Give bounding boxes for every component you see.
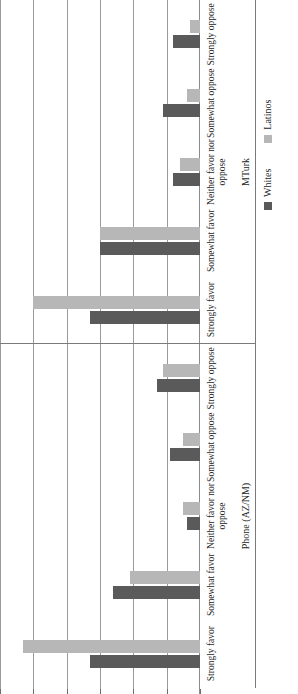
category-label: Strongly favor (206, 617, 217, 691)
bar-latinos-somewhat-oppose (183, 433, 200, 446)
bar-whites-somewhat-oppose (170, 448, 200, 461)
category-label: Neither favor nor oppose (206, 479, 228, 553)
bar-whites-neither-favor-nor-oppose (187, 517, 200, 530)
gridline (67, 0, 68, 694)
bar-latinos-neither-favor-nor-oppose (183, 502, 200, 515)
legend-label: Whites (262, 169, 273, 197)
chart-rotated-wrapper: 0102030405060 Strongly favorSomewhat fav… (0, 0, 298, 694)
bar-latinos-somewhat-favor (100, 227, 200, 240)
axis-tick (133, 689, 134, 694)
legend: WhitesLatinos (262, 100, 279, 210)
legend-swatch-icon (264, 135, 272, 143)
category-label: Somewhat oppose (206, 66, 217, 140)
legend-label: Latinos (262, 100, 273, 130)
bar-whites-neither-favor-nor-oppose (173, 173, 200, 186)
bar-latinos-strongly-oppose (163, 364, 200, 377)
bar-whites-somewhat-oppose (163, 104, 200, 117)
category-label: Neither favor nor oppose (206, 135, 228, 209)
category-label: Strongly oppose (206, 341, 217, 415)
bar-whites-strongly-oppose (157, 379, 200, 392)
axis-tick (100, 689, 101, 694)
bar-latinos-strongly-favor (23, 640, 200, 653)
legend-swatch-icon (264, 202, 272, 210)
category-label: Somewhat oppose (206, 410, 217, 484)
category-label: Somewhat favor (206, 204, 217, 278)
bar-whites-strongly-favor (90, 311, 200, 324)
category-label: Strongly favor (206, 273, 217, 347)
legend-item: Latinos (262, 100, 273, 143)
bar-whites-somewhat-favor (113, 586, 200, 599)
axis-tick (33, 689, 34, 694)
axis-tick (0, 689, 1, 694)
panel-separator (0, 343, 256, 344)
bar-latinos-somewhat-oppose (187, 89, 200, 102)
bar-whites-strongly-oppose (173, 35, 200, 48)
gridline (33, 0, 34, 694)
axis-tick (200, 689, 201, 694)
axis-tick (167, 689, 168, 694)
panel-label: MTurk (240, 112, 251, 232)
legend-item: Whites (262, 169, 273, 210)
gridline (100, 0, 101, 694)
axis-tick (67, 689, 68, 694)
bar-latinos-neither-favor-nor-oppose (180, 158, 200, 171)
bar-latinos-somewhat-favor (130, 571, 200, 584)
bar-whites-somewhat-favor (100, 242, 200, 255)
panel-rule (255, 0, 256, 688)
category-label: Strongly oppose (206, 0, 217, 71)
bar-whites-strongly-favor (90, 655, 200, 668)
plot-area (0, 0, 200, 694)
bar-latinos-strongly-favor (33, 296, 200, 309)
figure: 0102030405060 Strongly favorSomewhat fav… (0, 0, 298, 694)
bar-latinos-strongly-oppose (190, 20, 200, 33)
category-label: Somewhat favor (206, 548, 217, 622)
panel-label: Phone (AZ/NM) (240, 456, 251, 576)
gridline (0, 0, 1, 694)
